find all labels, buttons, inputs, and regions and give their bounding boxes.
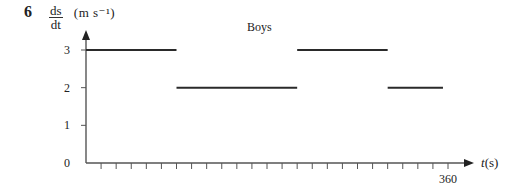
y-tick-label: 2 bbox=[64, 81, 70, 95]
y-tick-label: 1 bbox=[64, 118, 70, 132]
chart-plot: 0123360 bbox=[0, 0, 506, 193]
y-tick-label: 3 bbox=[64, 43, 70, 57]
y-axis-arrow-icon bbox=[82, 30, 90, 40]
x-tick-label: 360 bbox=[439, 172, 457, 186]
y-tick-label: 0 bbox=[64, 156, 70, 170]
x-axis-arrow-icon bbox=[464, 159, 474, 167]
